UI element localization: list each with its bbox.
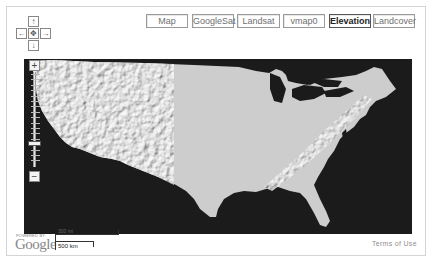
map-type-googlesat-button[interactable]: GoogleSat — [192, 14, 234, 28]
scale-km-label: 500 km — [58, 243, 78, 249]
zoom-level-tick[interactable] — [31, 128, 40, 129]
arrow-right-icon: → — [42, 29, 50, 38]
google-logo[interactable]: Google — [15, 236, 56, 253]
zoom-level-tick[interactable] — [31, 150, 40, 151]
zoom-level-tick[interactable] — [31, 155, 40, 156]
arrow-left-icon: ← — [18, 29, 26, 38]
zoom-level-tick[interactable] — [31, 85, 40, 86]
scale-bar: 300 mi 500 km — [55, 234, 119, 252]
zoom-level-tick[interactable] — [31, 117, 40, 118]
scale-line-miles — [55, 234, 119, 235]
pan-right-button[interactable]: → — [40, 28, 51, 39]
scale-tick-km — [93, 241, 94, 247]
scale-tick-miles — [118, 230, 119, 235]
zoom-level-tick[interactable] — [31, 90, 40, 91]
plus-icon: + — [32, 60, 38, 71]
zoom-out-button[interactable]: − — [29, 171, 40, 182]
arrow-down-icon: ↓ — [32, 41, 36, 50]
zoom-level-tick[interactable] — [31, 106, 40, 107]
scale-line-km — [55, 241, 93, 242]
map-type-vmap0-button[interactable]: vmap0 — [283, 14, 325, 28]
zoom-slider-thumb[interactable] — [28, 141, 41, 146]
zoom-level-tick[interactable] — [31, 101, 40, 102]
zoom-level-tick[interactable] — [31, 112, 40, 113]
pan-left-button[interactable]: ← — [16, 28, 27, 39]
map-type-landcover-button[interactable]: Landcover — [373, 14, 415, 28]
map-canvas[interactable]: + − — [24, 59, 412, 234]
scale-line-left — [55, 234, 56, 250]
zoom-level-tick[interactable] — [31, 74, 40, 75]
zoom-in-button[interactable]: + — [29, 60, 40, 71]
zoom-level-tick[interactable] — [31, 133, 40, 134]
terms-of-use-link[interactable]: Terms of Use — [372, 240, 417, 247]
pan-control: ↑ ← ✥ → ↓ — [16, 16, 52, 52]
zoom-level-tick[interactable] — [31, 79, 40, 80]
map-type-elevation-button[interactable]: Elevation — [329, 14, 371, 28]
pan-down-button[interactable]: ↓ — [28, 40, 39, 51]
arrow-up-icon: ↑ — [32, 17, 36, 26]
zoom-level-tick[interactable] — [31, 139, 40, 140]
zoom-level-tick[interactable] — [31, 96, 40, 97]
elevation-map-image — [24, 59, 412, 234]
pan-up-button[interactable]: ↑ — [28, 16, 39, 27]
zoom-slider-track[interactable] — [33, 72, 36, 167]
minus-icon: − — [32, 171, 38, 182]
map-type-landsat-button[interactable]: Landsat — [237, 14, 280, 28]
pan-center-button[interactable]: ✥ — [28, 28, 39, 39]
scale-miles-label: 300 mi — [58, 228, 73, 234]
zoom-level-tick[interactable] — [31, 123, 40, 124]
center-icon: ✥ — [30, 29, 37, 38]
map-type-map-button[interactable]: Map — [146, 14, 188, 28]
zoom-level-tick[interactable] — [31, 160, 40, 161]
